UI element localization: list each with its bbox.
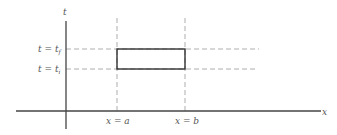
x-axis-label: x <box>322 107 327 117</box>
x-equals-a-label: x = a <box>106 116 130 126</box>
axes <box>16 21 321 129</box>
t-initial-label: t = ti <box>38 64 61 75</box>
t-final-label: t = tf <box>38 44 63 56</box>
dashed-guides <box>66 18 259 111</box>
x-equals-b-label: x = b <box>175 116 199 126</box>
t-axis-label: t <box>63 7 67 17</box>
spacetime-diagram: t x t = tf t = ti x = a x = b <box>0 0 337 135</box>
region-rectangle <box>117 49 185 69</box>
